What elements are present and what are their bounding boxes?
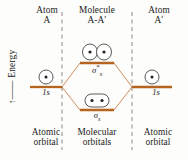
level-label-antibonding: σ*s [83, 64, 111, 77]
correlation-line-right-antibonding [114, 63, 132, 87]
level-label-bonding: σs [83, 111, 111, 122]
column-footer-atomic-orbital-right: Atomic orbital [134, 128, 182, 148]
bonding-subscript: s [98, 115, 100, 122]
level-label-left-1s: 1s [32, 88, 60, 97]
correlation-line-left-antibonding [62, 63, 80, 87]
column-footer-right-line2: orbital [134, 138, 182, 148]
column-footer-atomic-orbital-left: Atomic orbital [22, 128, 70, 148]
column-footer-left-line2: orbital [22, 138, 70, 148]
orbital-shape-right-1s [145, 70, 159, 84]
mo-energy-diagram: ↑—— Energy Atom A Molecule A-A′ Atom A′ [0, 0, 188, 160]
antibonding-subscript: s [100, 70, 102, 77]
correlation-line-left-bonding [62, 87, 80, 110]
orbital-shape-bonding [85, 94, 109, 107]
orbital-shape-antibonding [83, 44, 112, 60]
orbital-shape-left-1s [39, 70, 53, 84]
column-footer-middle-line2: orbitals [64, 138, 130, 148]
level-label-right-1s: 1s [142, 88, 170, 97]
correlation-line-right-bonding [114, 87, 132, 110]
column-footer-molecular-orbitals: Molecular orbitals [64, 128, 130, 148]
